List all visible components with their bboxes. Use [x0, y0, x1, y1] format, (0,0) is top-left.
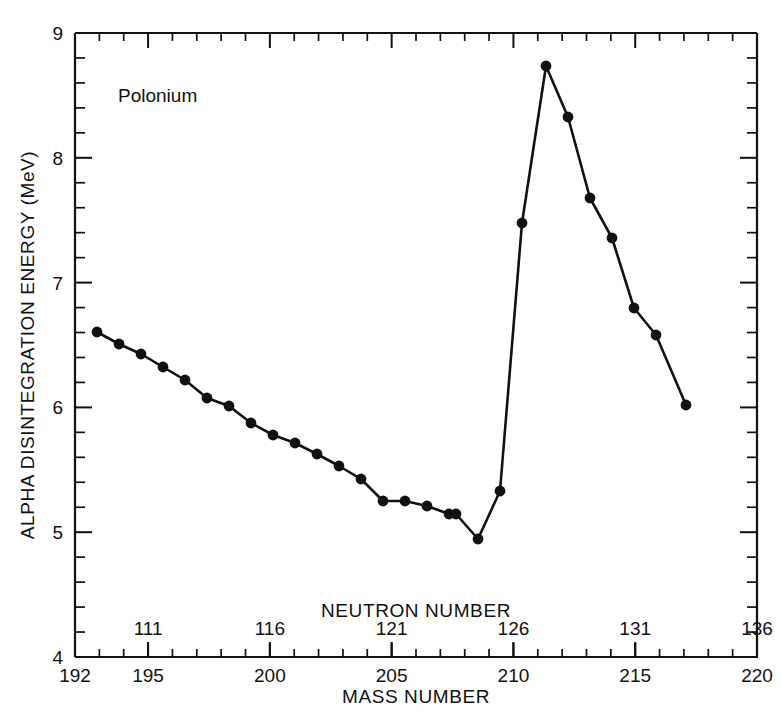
secondary-x-axis-tick-label: 131 [619, 618, 651, 639]
plot-frame [75, 33, 757, 657]
x-axis-tick-label: 195 [132, 665, 164, 686]
data-point [495, 486, 506, 497]
x-axis-tick-label: 200 [254, 665, 286, 686]
secondary-x-axis-tick-label: 116 [255, 618, 285, 639]
secondary-x-axis-tick-label: 126 [498, 618, 530, 639]
series-annotation-label: Polonium [118, 85, 197, 106]
data-point [268, 430, 279, 441]
data-point [202, 393, 213, 404]
x-axis-title: MASS NUMBER [342, 686, 490, 707]
y-axis-tick-labels: 456789 [52, 23, 63, 668]
y-axis-ticks [75, 33, 92, 657]
data-point [180, 375, 191, 386]
data-point [312, 449, 323, 460]
polonium-data-line [97, 66, 686, 539]
x-axis-tick-labels: 192195200205210215220 [59, 665, 773, 686]
top-axis-ticks [75, 33, 757, 48]
y-axis-tick-label: 7 [52, 273, 63, 294]
data-point [356, 474, 367, 485]
data-point [607, 233, 618, 244]
y-axis-tick-label: 9 [52, 23, 63, 44]
data-point [651, 330, 662, 341]
data-point [517, 218, 528, 229]
data-point [114, 339, 125, 350]
y-axis-tick-label: 5 [52, 522, 63, 543]
polonium-data-points [92, 61, 692, 545]
secondary-x-axis-tick-label: 136 [741, 618, 773, 639]
secondary-x-axis-tick-label: 111 [134, 618, 163, 639]
x-axis-ticks [75, 642, 757, 657]
data-point [473, 534, 484, 545]
data-point [541, 61, 552, 72]
data-point [334, 461, 345, 472]
x-axis-tick-label: 220 [741, 665, 773, 686]
data-point [629, 303, 640, 314]
data-point [136, 349, 147, 360]
y-axis-title: ALPHA DISINTEGRATION ENERGY (MeV) [17, 151, 38, 540]
data-point [224, 401, 235, 412]
x-axis-tick-label: 210 [498, 665, 530, 686]
data-point [246, 418, 257, 429]
chart-figure: 456789 192195200205210215220 11111612112… [0, 0, 781, 725]
data-point [290, 438, 301, 449]
x-axis-tick-label: 205 [376, 665, 408, 686]
y-axis-tick-label: 6 [52, 397, 63, 418]
data-point [158, 362, 169, 373]
secondary-x-axis-title: NEUTRON NUMBER [321, 600, 511, 621]
data-point [563, 112, 574, 123]
secondary-x-axis-ticks [148, 643, 757, 658]
secondary-x-axis-tick-label: 121 [376, 618, 408, 639]
y-axis-tick-label: 8 [52, 148, 63, 169]
axis-frame [75, 33, 757, 657]
secondary-x-axis-tick-labels: 111116121126131136 [134, 618, 773, 639]
data-point [400, 496, 411, 507]
right-axis-ticks [740, 33, 757, 657]
alpha-disintegration-energy-chart: 456789 192195200205210215220 11111612112… [0, 0, 781, 725]
data-point [92, 327, 103, 338]
data-point [451, 509, 462, 520]
x-axis-tick-label: 192 [59, 665, 91, 686]
data-point [585, 193, 596, 204]
x-axis-tick-label: 215 [619, 665, 651, 686]
data-point [681, 400, 692, 411]
data-point [422, 501, 433, 512]
data-point [378, 496, 389, 507]
